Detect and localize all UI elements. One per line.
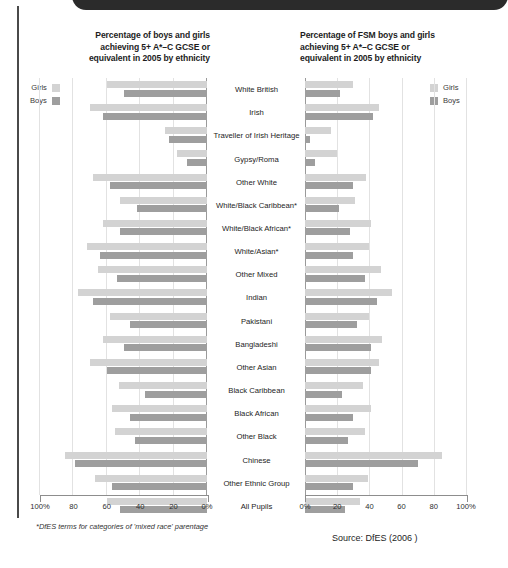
bar-boys (305, 460, 418, 467)
bar-girls (305, 266, 381, 273)
bar-group-row (305, 263, 466, 286)
bar-boys (305, 252, 353, 259)
right-chart-tick-labels: 0%20406080100% (289, 502, 482, 514)
bar-group-row (40, 263, 207, 286)
category-label: Bangladeshi (207, 333, 306, 356)
bar-girls (93, 174, 207, 181)
bar-girls (177, 150, 207, 157)
bar-girls (103, 336, 207, 343)
bar-girls (305, 150, 337, 157)
category-label: Black Caribbean (207, 379, 306, 402)
bar-girls (305, 174, 366, 181)
bar-girls (305, 220, 371, 227)
right-title-line-1: Percentage of FSM boys and girls (300, 30, 482, 42)
bar-group-row (40, 310, 207, 333)
bar-group-row (305, 101, 466, 124)
bar-group-row (40, 333, 207, 356)
right-title-line-3: equivalent in 2005 by ethnicity (300, 53, 482, 65)
bar-boys (107, 367, 207, 374)
bar-girls (305, 313, 369, 320)
category-label: Irish (207, 101, 306, 124)
bar-girls (165, 127, 207, 134)
right-chart-title-block: Percentage of FSM boys and girls achievi… (296, 30, 482, 65)
bar-boys (137, 205, 207, 212)
category-label: Gypsy/Roma (207, 147, 306, 170)
bar-group-row (305, 472, 466, 495)
bar-boys (305, 113, 373, 120)
chart-page: Percentage of boys and girls achieving 5… (0, 0, 508, 568)
source-credit: Source: DfES (2006 ) (332, 533, 418, 543)
bar-group-row (305, 402, 466, 425)
bar-group-row (40, 101, 207, 124)
bar-boys (305, 275, 365, 282)
category-label: Black African (207, 402, 306, 425)
axis-tick-label: 0% (289, 502, 321, 511)
axis-tick-label: 60 (91, 502, 123, 511)
axis-tick-label: 20 (158, 502, 190, 511)
bar-group-row (305, 449, 466, 472)
bar-boys (305, 437, 348, 444)
bar-girls (107, 81, 207, 88)
bar-girls (95, 475, 207, 482)
bar-group-row (40, 402, 207, 425)
bar-boys (305, 159, 315, 166)
bar-boys (103, 113, 207, 120)
bar-girls (305, 197, 355, 204)
bar-boys (124, 344, 208, 351)
bar-boys (305, 414, 353, 421)
bar-girls (305, 289, 392, 296)
bar-boys (93, 298, 207, 305)
bar-group-row (305, 171, 466, 194)
bar-boys (305, 90, 340, 97)
bar-boys (75, 460, 207, 467)
bar-boys (305, 391, 342, 398)
bar-group-row (305, 333, 466, 356)
bar-girls (78, 289, 207, 296)
bar-girls (305, 127, 331, 134)
bar-group-row (305, 194, 466, 217)
bar-boys (117, 275, 207, 282)
bar-boys (130, 414, 207, 421)
bar-boys (124, 90, 208, 97)
left-chart-title: Percentage of boys and girls achieving 5… (26, 30, 212, 65)
left-chart-plot-area (40, 78, 207, 495)
bar-group-row (40, 472, 207, 495)
bar-boys (305, 205, 339, 212)
left-title-line-2: achieving 5+ A*–C GCSE or (26, 42, 210, 54)
left-chart-title-block: Percentage of boys and girls achieving 5… (26, 30, 212, 65)
category-label-column: White BritishIrishTraveller of Irish Her… (207, 78, 306, 495)
bar-group-row (305, 286, 466, 309)
bar-group-row (305, 425, 466, 448)
bar-group-row (305, 147, 466, 170)
bar-girls (120, 197, 207, 204)
bar-group-row (305, 124, 466, 147)
bar-boys (130, 321, 207, 328)
bar-group-row (40, 194, 207, 217)
left-vertical-rule (17, 6, 19, 518)
axis-tick-label: 80 (57, 502, 89, 511)
category-label: Other White (207, 171, 306, 194)
bar-boys (112, 483, 207, 490)
left-chart-axis-line (40, 495, 209, 502)
bar-boys (305, 321, 357, 328)
bar-girls (65, 452, 207, 459)
bar-group-row (305, 240, 466, 263)
axis-tick-label: 100% (24, 502, 56, 511)
bar-girls (87, 243, 207, 250)
right-chart-title: Percentage of FSM boys and girls achievi… (296, 30, 482, 65)
axis-tick-label: 40 (353, 502, 385, 511)
bar-girls (305, 475, 368, 482)
bar-boys (305, 483, 353, 490)
category-label: Other Mixed (207, 263, 306, 286)
category-label: Chinese (207, 449, 306, 472)
bar-group-row (305, 78, 466, 101)
bar-boys (145, 391, 207, 398)
right-chart-axis-line (305, 495, 468, 502)
category-label: Pakistani (207, 310, 306, 333)
bar-group-row (40, 78, 207, 101)
bar-group-row (40, 147, 207, 170)
category-label: White/Black Caribbean* (207, 194, 306, 217)
bar-group-row (40, 217, 207, 240)
category-label: Traveller of Irish Heritage (207, 124, 306, 147)
top-header-bar (72, 0, 508, 10)
